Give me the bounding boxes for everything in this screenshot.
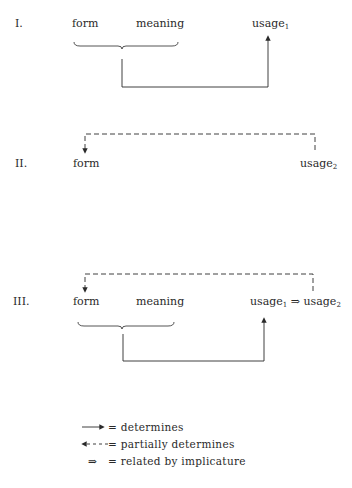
diagram-III-partial-arrow (85, 274, 313, 291)
diagram-I-meaning: meaning (136, 18, 184, 30)
diagram-I-determines-arrow (122, 38, 268, 87)
diagram-I-form: form (72, 18, 98, 30)
diagram-II-partial-arrow (85, 134, 315, 151)
diagram-II-numeral: II. (15, 158, 27, 170)
diagram-III-usages: usage1 ⇒ usage2 (250, 296, 341, 311)
implicature-icon: ⇒ (291, 295, 300, 308)
diagram-II-usage: usage2 (300, 158, 337, 173)
diagram-I-usage: usage1 (252, 18, 289, 33)
diagram-III-numeral: III. (13, 296, 30, 308)
legend-implicature-icon: ⇒ (88, 455, 97, 467)
diagram-III-brace (78, 322, 174, 329)
legend-partially-determines: = partially determines (108, 438, 235, 450)
diagram-III-form: form (73, 296, 99, 308)
diagram-III-usage2: usage (304, 295, 337, 308)
diagram-I-numeral: I. (15, 18, 23, 30)
diagram-lines (0, 0, 352, 488)
diagram-II-form: form (73, 158, 99, 170)
diagram-III-usage1: usage (250, 295, 283, 308)
diagram-III-meaning: meaning (136, 296, 184, 308)
diagram-I-brace (74, 42, 178, 49)
legend-related-by-implicature: = related by implicature (108, 455, 246, 467)
legend-determines: = determines (108, 421, 184, 433)
